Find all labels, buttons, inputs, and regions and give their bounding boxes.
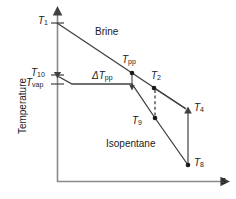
point-label-T8-sub: 8 <box>200 161 204 168</box>
point-T2 <box>152 86 157 91</box>
point-label-Tpp-sub: pp <box>128 58 136 65</box>
ts-diagram-figure: Temperature s T1 T10 Tvap Brine Isopenta… <box>0 0 236 199</box>
point-label-T9-sub: 9 <box>138 119 142 126</box>
point-label-T2-sub: 2 <box>157 74 161 81</box>
tick-label-T10: T10 <box>31 68 45 78</box>
point-label-T8: T8 <box>194 158 204 168</box>
point-label-T9: T9 <box>132 116 142 126</box>
segment-T2-T4 <box>154 88 186 109</box>
annotation-delta-symbol: Δ <box>92 70 99 81</box>
isopentane-line <box>58 76 189 165</box>
point-T8 <box>186 163 191 168</box>
isopentane-curve-label: Isopentane <box>106 139 156 149</box>
point-label-T4: T4 <box>194 103 204 113</box>
tick-label-T1-sub: 1 <box>44 19 48 26</box>
tick-label-T1: T1 <box>38 16 48 26</box>
point-Tpp <box>130 71 135 76</box>
brine-curve-label: Brine <box>95 27 118 37</box>
tick-label-Tvap-sub: vap <box>32 81 43 88</box>
x-axis-label: s <box>221 176 226 186</box>
tick-label-Tvap: Tvap <box>26 78 43 88</box>
y-axis-label: Temperature <box>18 51 28 161</box>
point-label-T2: T2 <box>151 71 161 81</box>
annotation-delta-sub: pp <box>105 74 113 81</box>
point-T9 <box>153 116 158 121</box>
point-label-Tpp: Tpp <box>122 55 136 65</box>
annotation-delta-T-pp: ΔTpp <box>92 71 113 81</box>
point-label-T4-sub: 4 <box>200 106 204 113</box>
tick-label-T10-sub: 10 <box>37 71 45 78</box>
